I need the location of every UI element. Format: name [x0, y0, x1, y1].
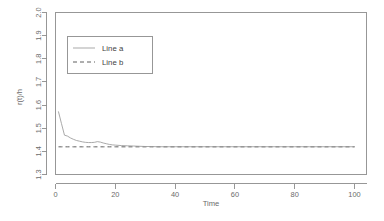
x-tick-label: 60: [231, 190, 239, 199]
y-tick-labels: 1.31.41.51.61.71.81.92.0: [34, 7, 43, 179]
series-line-a: [58, 112, 354, 147]
y-axis: 1.31.41.51.61.71.81.92.0 r(t)/h: [15, 7, 47, 179]
y-tick-label: 1.8: [34, 54, 43, 64]
legend-label-a: Line a: [102, 44, 124, 53]
x-axis-title: Time: [203, 199, 220, 208]
x-tick-label: 80: [291, 190, 299, 199]
x-tick-label: 0: [53, 190, 57, 199]
y-tick-label: 1.7: [34, 77, 43, 87]
y-tick-label: 1.5: [34, 123, 43, 133]
y-tick-label: 2.0: [34, 7, 43, 17]
line-chart: 1.31.41.51.61.71.81.92.0 r(t)/h 02040608…: [0, 0, 384, 221]
chart-container: 1.31.41.51.61.71.81.92.0 r(t)/h 02040608…: [0, 0, 384, 221]
legend: Line a Line b: [68, 37, 153, 74]
y-axis-title: r(t)/h: [15, 89, 24, 105]
x-tick-label: 20: [111, 190, 119, 199]
x-tick-label: 40: [171, 190, 179, 199]
series-group: [58, 112, 354, 147]
x-tick-label: 100: [348, 190, 360, 199]
x-tick-labels: 020406080100: [53, 190, 360, 199]
x-axis: 020406080100 Time: [53, 184, 366, 209]
y-tick-label: 1.4: [34, 146, 43, 156]
y-tick-label: 1.6: [34, 100, 43, 110]
y-tick-label: 1.3: [34, 169, 43, 179]
x-tick-marks: [56, 184, 355, 189]
y-tick-label: 1.9: [34, 31, 43, 41]
legend-label-b: Line b: [102, 58, 124, 67]
legend-box: [68, 37, 153, 74]
